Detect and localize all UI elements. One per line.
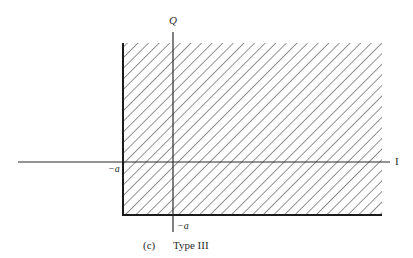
hatched-region <box>123 43 382 215</box>
caption-title: Type III <box>173 240 209 251</box>
caption-tag: (c) <box>143 240 155 251</box>
q-axis-label: Q <box>169 15 177 26</box>
left-boundary-value-label: −a <box>108 164 120 174</box>
type-iii-region-diagram <box>0 0 413 258</box>
i-axis-label: I <box>395 156 399 167</box>
bottom-boundary-value-label: −a <box>177 221 189 231</box>
